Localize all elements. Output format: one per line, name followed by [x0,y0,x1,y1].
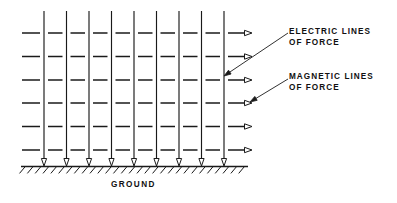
down-arrowhead [221,159,226,167]
ground-hatch [231,167,237,174]
field-lines-diagram: ELECTRIC LINESOF FORCE MAGNETIC LINESOF … [0,0,397,203]
ground-hatch [168,167,174,174]
ground-hatch [200,167,206,174]
ground-hatch [106,167,112,174]
ground-hatch [98,167,104,174]
magnetic-lines-label: MAGNETIC LINESOF FORCE [289,72,374,93]
ground-hatch [82,167,88,174]
down-arrowhead [176,159,181,167]
ground-hatch [20,167,26,174]
electric-leader-arrowhead [224,70,231,76]
magnetic-label-line-1: MAGNETIC LINES [289,72,374,81]
ground-hatch [145,167,151,174]
vertical-electric-line-group [41,11,226,166]
down-arrowhead [64,159,69,167]
ground-hatch [192,167,198,174]
ground-hatch [121,167,127,174]
magnetic-leader-arrowhead [250,96,257,102]
down-arrowhead [41,159,46,167]
electric-label-line-2: OF FORCE [289,38,340,47]
right-arrowhead [245,124,253,129]
horizontal-magnetic-row-group [22,30,252,152]
ground-hatch [215,167,221,174]
ground-hatch [207,167,213,174]
ground-hatch [176,167,182,174]
electric-label-line-1: ELECTRIC LINES [289,27,371,36]
right-arrowhead [245,147,253,152]
ground-hatch [153,167,159,174]
magnetic-leader [256,79,288,98]
right-arrowhead [245,77,253,82]
ground-hatch [184,167,190,174]
ground-hatching-group [20,167,248,174]
ground-hatch [90,167,96,174]
ground-hatch [35,167,41,174]
right-arrowhead [245,30,253,35]
down-arrowhead [109,159,114,167]
magnetic-label-line-2: OF FORCE [289,83,340,92]
down-arrowhead [131,159,136,167]
ground-hatch [223,167,229,174]
ground-hatch [129,167,135,174]
ground-hatch [43,167,49,174]
ground-hatch [27,167,33,174]
down-arrowhead [199,159,204,167]
ground-label: GROUND [111,180,156,189]
down-arrowhead [86,159,91,167]
ground-hatch [137,167,143,174]
ground-hatch [66,167,72,174]
ground-hatch [113,167,119,174]
electric-leader [230,33,288,72]
ground-hatch [59,167,65,174]
down-arrowhead [154,159,159,167]
callout-leader-group [224,33,288,102]
ground-hatch [160,167,166,174]
ground-hatch [51,167,57,174]
ground-hatch [74,167,80,174]
electric-lines-label: ELECTRIC LINESOF FORCE [289,27,371,48]
ground-hatch [239,167,245,174]
